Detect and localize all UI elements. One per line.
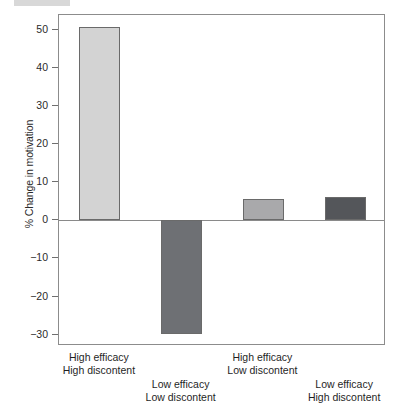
- y-tick-label: −20: [2, 290, 48, 302]
- x-category-label-line: Low efficacy: [308, 378, 380, 391]
- bar-3: [243, 199, 284, 220]
- x-category-label-line: High efficacy: [227, 351, 297, 364]
- plot-inner: [59, 15, 384, 344]
- y-tick-label: 30: [2, 99, 48, 111]
- x-category-label-3: High efficacyLow discontent: [227, 351, 297, 377]
- y-tick-label: −30: [2, 328, 48, 340]
- bar-2: [161, 220, 202, 333]
- bar-4: [325, 197, 366, 221]
- x-category-label-line: Low discontent: [146, 391, 216, 404]
- bar-chart-figure: % Change in motivation 50403020100−10−20…: [0, 0, 399, 415]
- y-tick-label: −10: [2, 251, 48, 263]
- x-category-label-2: Low efficacyLow discontent: [146, 378, 216, 404]
- x-category-label-line: Low efficacy: [146, 378, 216, 391]
- x-category-label-line: High efficacy: [63, 351, 135, 364]
- y-tick-label: 20: [2, 137, 48, 149]
- zero-baseline: [59, 220, 384, 221]
- x-category-label-line: Low discontent: [227, 364, 297, 377]
- x-category-label-1: High efficacyHigh discontent: [63, 351, 135, 377]
- y-tick-label: 10: [2, 175, 48, 187]
- x-category-label-line: High discontent: [63, 364, 135, 377]
- y-tick-label: 40: [2, 61, 48, 73]
- y-tick-label: 50: [2, 23, 48, 35]
- y-tick-label: 0: [2, 213, 48, 225]
- x-category-label-line: High discontent: [308, 391, 380, 404]
- plot-area: [58, 14, 385, 345]
- x-category-label-4: Low efficacyHigh discontent: [308, 378, 380, 404]
- bar-1: [79, 27, 120, 220]
